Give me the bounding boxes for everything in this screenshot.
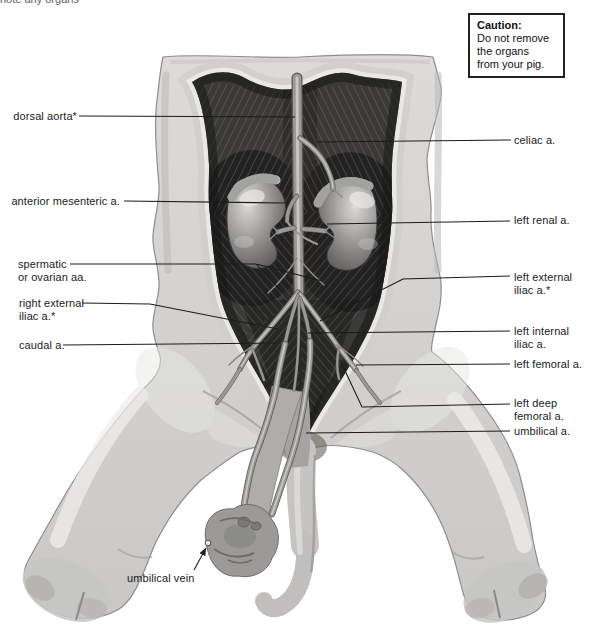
label-left-internal-iliac: left internal iliac a. [514, 325, 569, 351]
label-left-external-iliac: left external iliac a.* [514, 271, 572, 297]
umbilical-cord-stump [205, 505, 278, 577]
left-renal-vessel [303, 229, 325, 231]
caution-body: Do not remove the organs from your pig. [477, 32, 557, 71]
label-right-external-iliac: right external iliac a.* [19, 297, 84, 323]
figure-page: note any organs [0, 0, 590, 644]
umbilical-vein-cut-end [205, 540, 211, 546]
leader-umbilical-vein-arrow [194, 548, 206, 570]
label-umbilical-vein: umbilical vein [127, 572, 194, 585]
label-left-deep-femoral: left deep femoral a. [514, 397, 564, 423]
caution-title: Caution: [477, 19, 557, 32]
label-caudal: caudal a. [19, 339, 65, 352]
pig-dissection-illustration [0, 0, 590, 644]
label-left-renal: left renal a. [514, 214, 570, 227]
label-left-femoral: left femoral a. [514, 358, 582, 371]
caution-box: Caution: Do not remove the organs from y… [468, 13, 565, 78]
label-celiac: celiac a. [514, 134, 555, 147]
label-umbilical-artery: umbilical a. [514, 425, 570, 438]
label-dorsal-aorta: dorsal aorta* [0, 110, 77, 123]
label-spermatic-or-ovarian: spermatic or ovarian aa. [18, 258, 87, 284]
label-anterior-mesenteric: anterior mesenteric a. [0, 195, 120, 208]
